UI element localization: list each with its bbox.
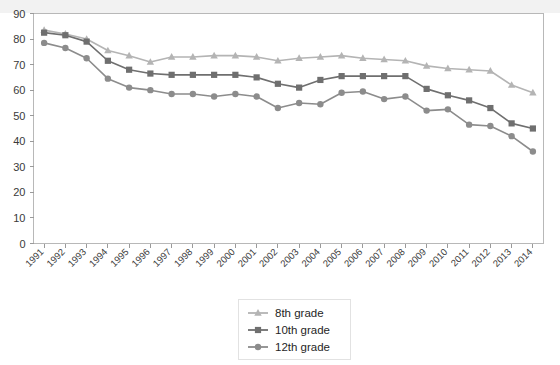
x-tick-label: 2011	[448, 246, 470, 268]
data-point-marker	[402, 93, 408, 99]
data-point-marker	[339, 73, 345, 79]
y-tick-label: 10	[13, 212, 25, 224]
data-point-marker	[211, 72, 217, 78]
data-point-marker	[338, 90, 344, 96]
data-point-marker	[487, 123, 493, 129]
x-tick-label: 2012	[469, 246, 492, 269]
data-point-marker	[41, 40, 47, 46]
data-point-marker	[530, 148, 536, 154]
data-point-marker	[190, 72, 196, 78]
y-tick-label: 90	[13, 8, 25, 20]
line-chart: 0102030405060708090 19911992199319941995…	[0, 0, 560, 365]
data-point-marker	[360, 73, 366, 79]
y-tick-label: 80	[13, 33, 25, 45]
plot-frame	[34, 14, 544, 244]
x-tick-label: 1995	[108, 246, 131, 269]
x-tick-label: 1993	[65, 246, 88, 269]
x-tick-label: 1994	[87, 246, 110, 269]
data-point-marker	[41, 30, 47, 36]
data-point-marker	[275, 81, 281, 87]
data-point-marker	[62, 32, 68, 38]
y-axis: 0102030405060708090	[13, 8, 33, 250]
data-point-marker	[105, 75, 111, 81]
x-tick-label: 2001	[235, 246, 258, 269]
y-tick-label: 0	[19, 238, 25, 250]
data-point-marker	[466, 97, 472, 103]
y-tick-label: 40	[13, 135, 25, 147]
data-point-marker	[296, 85, 302, 91]
x-tick-label: 1996	[129, 246, 152, 269]
data-point-marker	[424, 86, 430, 92]
x-tick-label: 2009	[405, 246, 428, 269]
y-tick-label: 60	[13, 84, 25, 96]
x-tick-label: 2003	[278, 246, 301, 269]
data-point-marker	[147, 87, 153, 93]
data-point-marker	[317, 101, 323, 107]
x-tick-label: 2007	[363, 246, 386, 269]
y-tick-label: 70	[13, 59, 25, 71]
y-tick-label: 20	[13, 186, 25, 198]
legend-marker-square-icon	[255, 327, 261, 333]
data-point-marker	[360, 88, 366, 94]
x-tick-label: 2008	[384, 246, 407, 269]
x-tick-label: 1992	[44, 246, 67, 269]
x-axis: 1991199219931994199519961997199819992000…	[23, 244, 534, 269]
chart-screenshot: 0102030405060708090 19911992199319941995…	[0, 0, 560, 365]
x-tick-label: 2014	[512, 246, 535, 269]
x-tick-label: 2004	[299, 246, 322, 269]
data-point-marker	[84, 39, 90, 45]
y-tick-label: 50	[13, 110, 25, 122]
data-point-marker	[168, 91, 174, 97]
data-point-marker	[530, 125, 536, 131]
x-tick-label: 2000	[214, 246, 237, 269]
data-point-marker	[296, 100, 302, 106]
data-point-marker	[147, 70, 153, 76]
x-tick-label: 1997	[150, 246, 173, 269]
data-point-marker	[402, 73, 408, 79]
y-tick-label: 30	[13, 161, 25, 173]
data-point-marker	[126, 67, 132, 73]
legend-label: 12th grade	[275, 341, 330, 353]
data-point-marker	[317, 77, 323, 83]
legend-marker-circle-icon	[255, 344, 261, 350]
data-point-marker	[508, 133, 514, 139]
x-tick-label: 1999	[193, 246, 216, 269]
x-tick-label: 2013	[490, 246, 513, 269]
data-point-marker	[253, 93, 259, 99]
x-tick-label: 2006	[342, 246, 365, 269]
data-point-marker	[190, 91, 196, 97]
data-point-marker	[466, 121, 472, 127]
data-point-marker	[232, 91, 238, 97]
data-point-marker	[232, 72, 238, 78]
data-point-marker	[445, 106, 451, 112]
chart-legend: 8th grade10th grade12th grade	[238, 299, 350, 359]
x-tick-label: 1998	[172, 246, 195, 269]
chart-svg: 0102030405060708090 19911992199319941995…	[0, 0, 560, 365]
legend-label: 10th grade	[275, 324, 330, 336]
plot-area	[34, 14, 544, 244]
x-tick-label: 1991	[23, 246, 46, 269]
data-point-marker	[126, 84, 132, 90]
data-point-marker	[509, 120, 515, 126]
x-tick-label: 2010	[427, 246, 450, 269]
data-point-marker	[169, 72, 175, 78]
data-point-marker	[487, 105, 493, 111]
x-tick-label: 2005	[320, 246, 343, 269]
data-point-marker	[423, 107, 429, 113]
data-point-marker	[83, 55, 89, 61]
data-point-marker	[62, 45, 68, 51]
data-point-marker	[275, 105, 281, 111]
data-point-marker	[445, 92, 451, 98]
data-point-marker	[105, 58, 111, 64]
data-point-marker	[254, 74, 260, 80]
data-point-marker	[211, 93, 217, 99]
x-tick-label: 2002	[257, 246, 280, 269]
data-point-marker	[381, 96, 387, 102]
data-point-marker	[381, 73, 387, 79]
legend-label: 8th grade	[275, 307, 324, 319]
